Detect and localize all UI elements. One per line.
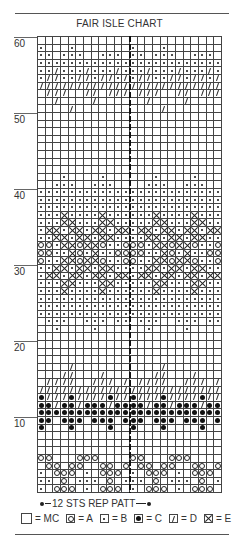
chart-cell: [168, 303, 176, 311]
cross-e-icon: [61, 212, 68, 219]
slash-d-icon: [208, 83, 211, 89]
chart-cell: [214, 128, 222, 136]
chart-cell: [153, 349, 161, 357]
chart-cell: [38, 121, 46, 129]
dot-b-icon: [148, 260, 150, 262]
dot-b-icon: [217, 191, 219, 193]
chart-cell: [92, 409, 100, 417]
slash-d-icon: [216, 75, 219, 81]
slash-d-icon: [193, 372, 196, 378]
dot-c-icon: [62, 410, 67, 415]
dot-c-icon: [161, 395, 166, 400]
chart-cell: [99, 318, 107, 326]
dot-b-icon: [186, 214, 188, 216]
slash-d-icon: [55, 90, 58, 96]
chart-cell: [214, 273, 222, 281]
chart-cell: [176, 121, 184, 129]
chart-cell: [138, 257, 146, 265]
dot-b-icon: [125, 290, 127, 292]
chart-cell: [184, 394, 192, 402]
dot-b-icon: [125, 282, 127, 284]
dot-b-icon: [86, 214, 88, 216]
chart-cell: [99, 288, 107, 296]
chart-cell: [184, 90, 192, 98]
chart-cell: [207, 113, 215, 121]
chart-cell: [53, 159, 61, 167]
chart-cell: [53, 151, 61, 159]
dot-b-icon: [155, 176, 157, 178]
chart-cell: [145, 349, 153, 357]
chart-cell: [176, 181, 184, 189]
chart-cell: [46, 98, 54, 106]
slash-d-icon: [124, 90, 127, 96]
chart-cell: [38, 204, 46, 212]
chart-cell: [107, 371, 115, 379]
cross-e-icon: [76, 234, 83, 241]
dot-b-icon: [125, 62, 127, 64]
chart-cell: [76, 242, 84, 250]
slash-d-icon: [162, 387, 165, 393]
slash-d-icon: [155, 83, 158, 89]
dot-c-icon: [200, 395, 205, 400]
chart-cell: [176, 447, 184, 455]
cross-e-icon: [69, 242, 76, 249]
chart-cell: [115, 151, 123, 159]
chart-cell: [84, 197, 92, 205]
chart-cell: [130, 387, 138, 395]
chart-cell: [145, 303, 153, 311]
dot-b-icon: [102, 70, 104, 72]
cross-e-icon: [184, 227, 191, 234]
dot-b-icon: [56, 191, 58, 193]
dot-b-icon: [109, 206, 111, 208]
chart-cell: [138, 174, 146, 182]
chart-cell: [107, 166, 115, 174]
chart-cell: [168, 250, 176, 258]
chart-cell: [53, 341, 61, 349]
slash-d-icon: [193, 83, 196, 89]
chart-cell: [207, 295, 215, 303]
chart-cell: [161, 45, 169, 53]
chart-cell: [46, 189, 54, 197]
chart-cell: [207, 37, 215, 45]
chart-cell: [138, 128, 146, 136]
chart-cell: [99, 143, 107, 151]
chart-cell: [92, 417, 100, 425]
chart-cell: [184, 143, 192, 151]
dot-c-icon: [192, 418, 197, 423]
chart-cell: [61, 98, 69, 106]
chart-cell: [92, 295, 100, 303]
chart-cell: [92, 402, 100, 410]
chart-cell: [130, 394, 138, 402]
chart-cell: [161, 52, 169, 60]
dot-b-icon: [94, 191, 96, 193]
dot-b-icon: [71, 267, 73, 269]
chart-cell: [168, 273, 176, 281]
chart-cell: [53, 394, 61, 402]
chart-cell: [92, 440, 100, 448]
chart-cell: [138, 425, 146, 433]
chart-cell: [153, 166, 161, 174]
chart-cell: [214, 349, 222, 357]
dot-b-icon: [79, 305, 81, 307]
chart-cell: [38, 280, 46, 288]
chart-cell: [84, 333, 92, 341]
chart-cell: [84, 318, 92, 326]
dot-b-icon: [71, 313, 73, 315]
chart-cell: [46, 83, 54, 91]
dot-b-icon: [209, 237, 211, 239]
chart-cell: [207, 394, 215, 402]
chart-cell: [107, 402, 115, 410]
chart-cell: [184, 379, 192, 387]
dot-b-icon: [186, 305, 188, 307]
chart-cell: [214, 189, 222, 197]
chart-cell: [69, 128, 77, 136]
cross-e-icon: [161, 257, 168, 264]
chart-cell: [153, 174, 161, 182]
chart-cell: [61, 197, 69, 205]
chart-cell: [168, 37, 176, 45]
dot-b-icon: [56, 62, 58, 64]
cross-e-icon: [214, 272, 221, 279]
chart-cell: [38, 318, 46, 326]
chart-cell: [38, 83, 46, 91]
chart-cell: [61, 463, 69, 471]
